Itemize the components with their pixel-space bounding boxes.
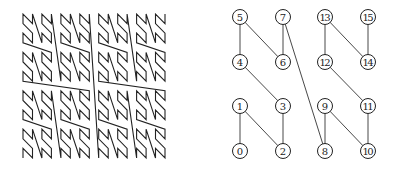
node-13: 13: [318, 10, 333, 25]
node-label: 13: [320, 12, 331, 23]
node-2: 2: [276, 144, 291, 159]
edge-9-10: [325, 106, 368, 151]
node-label: 6: [280, 57, 286, 68]
node-label: 11: [363, 101, 374, 112]
node-1: 1: [233, 99, 248, 114]
node-12: 12: [318, 55, 333, 70]
edge-13-14: [325, 17, 368, 62]
morton-curve-16x16: [23, 14, 165, 158]
node-label: 10: [363, 146, 374, 157]
node-label: 15: [363, 12, 374, 23]
node-label: 9: [322, 101, 328, 112]
node-11: 11: [361, 99, 376, 114]
curve-path: [23, 14, 165, 158]
node-3: 3: [276, 99, 291, 114]
edge-1-2: [240, 106, 283, 151]
diagram-canvas: 0123456789101112131415: [0, 0, 393, 173]
node-label: 2: [280, 146, 286, 157]
node-10: 10: [361, 144, 376, 159]
node-label: 5: [237, 12, 243, 23]
edge-11-12: [325, 62, 368, 106]
node-label: 12: [320, 57, 331, 68]
edge-5-6: [240, 17, 283, 62]
node-8: 8: [318, 144, 333, 159]
node-label: 4: [237, 57, 243, 68]
morton-curve-4x4-edges: [240, 17, 368, 151]
node-14: 14: [361, 55, 376, 70]
node-7: 7: [276, 10, 291, 25]
node-6: 6: [276, 55, 291, 70]
node-4: 4: [233, 55, 248, 70]
node-label: 3: [280, 101, 286, 112]
edge-3-4: [240, 62, 283, 106]
node-0: 0: [233, 144, 248, 159]
node-label: 1: [237, 101, 243, 112]
node-label: 8: [322, 146, 328, 157]
node-label: 14: [363, 57, 374, 68]
node-9: 9: [318, 99, 333, 114]
node-5: 5: [233, 10, 248, 25]
node-label: 7: [280, 12, 286, 23]
edge-7-8: [283, 17, 325, 151]
node-label: 0: [237, 146, 243, 157]
node-15: 15: [361, 10, 376, 25]
